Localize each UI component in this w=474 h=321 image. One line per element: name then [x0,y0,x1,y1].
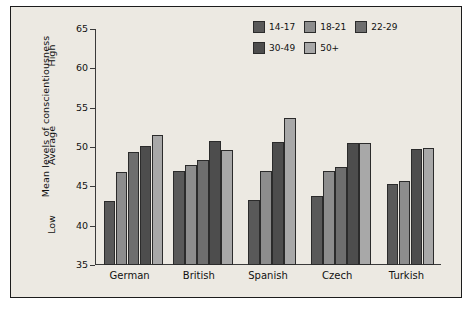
bar-british-22-29[interactable] [197,160,209,265]
bar-turkish-30-49[interactable] [411,149,423,265]
y-tick-label-45: 45 [48,180,88,191]
bar-german-14-17[interactable] [104,201,116,266]
bar-german-30-49[interactable] [140,146,152,265]
bar-czech-30-49[interactable] [347,143,359,265]
bar-czech-18-21[interactable] [323,171,335,265]
bar-spanish-30-49[interactable] [272,142,284,266]
bar-british-30-49[interactable] [209,141,221,265]
bar-turkish-14-17[interactable] [387,184,399,265]
y-tick-60 [90,68,95,69]
bar-german-50plus[interactable] [152,135,164,265]
bar-german-18-21[interactable] [116,172,128,265]
bar-turkish-50plus[interactable] [423,148,435,265]
y-tick-35 [90,265,95,266]
category-label-british: British [164,270,233,281]
y-tick-55 [90,108,95,109]
bar-british-50plus[interactable] [221,150,233,265]
zone-label-low: Low [46,196,57,252]
y-tick-label-55: 55 [48,102,88,113]
bar-spanish-50plus[interactable] [284,118,296,265]
plot-area: 35404550556065 LowAverageHigh GermanBrit… [95,29,441,265]
y-tick-65 [90,29,95,30]
bar-british-18-21[interactable] [185,165,197,265]
category-label-turkish: Turkish [372,270,441,281]
y-tick-50 [90,147,95,148]
category-label-czech: Czech [303,270,372,281]
bar-czech-50plus[interactable] [359,143,371,265]
bar-spanish-18-21[interactable] [260,171,272,265]
zone-label-high: High [46,27,57,83]
bar-spanish-14-17[interactable] [248,200,260,265]
bar-german-22-29[interactable] [128,152,140,265]
chart-figure: Mean levels of conscientiousness 14-17 1… [10,6,462,298]
bar-turkish-18-21[interactable] [399,181,411,265]
category-label-spanish: Spanish [233,270,302,281]
zone-label-average: Average [46,118,57,174]
y-axis-line [95,29,96,265]
bar-czech-14-17[interactable] [311,196,323,265]
y-tick-40 [90,226,95,227]
category-label-german: German [95,270,164,281]
bar-czech-22-29[interactable] [335,167,347,265]
y-tick-45 [90,186,95,187]
bar-british-14-17[interactable] [173,171,185,265]
y-tick-label-35: 35 [48,259,88,270]
